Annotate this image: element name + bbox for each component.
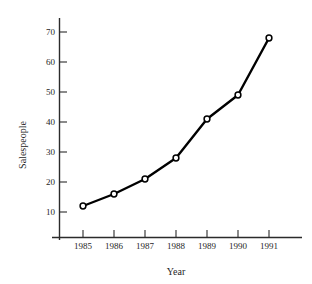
x-tick-label-1989: 1989: [198, 241, 217, 251]
data-point-1988: [173, 155, 179, 161]
x-tick-label-1991: 1991: [260, 241, 278, 251]
y-tick-label-60: 60: [46, 57, 56, 67]
x-tick-label-1985: 1985: [74, 241, 93, 251]
y-axis-title: Salespeople: [17, 121, 28, 169]
y-tick-label-70: 70: [46, 27, 56, 37]
y-tick-label-50: 50: [46, 87, 56, 97]
y-tick-label-30: 30: [46, 147, 56, 157]
data-point-1987: [142, 176, 148, 182]
chart-page: 70 60 50 40 30 20 10 Salespeople: [0, 0, 312, 284]
data-point-1989: [204, 116, 210, 122]
x-tick-label-1987: 1987: [136, 241, 155, 251]
x-tick-label-1990: 1990: [229, 241, 248, 251]
x-tick-label-1986: 1986: [105, 241, 124, 251]
y-tick-label-20: 20: [46, 177, 56, 187]
y-tick-label-40: 40: [46, 117, 56, 127]
line-chart: 70 60 50 40 30 20 10 Salespeople: [0, 0, 312, 284]
data-point-1990: [235, 92, 241, 98]
data-point-1986: [111, 191, 117, 197]
data-point-1985: [80, 203, 86, 209]
y-tick-label-10: 10: [46, 207, 56, 217]
x-tick-label-1988: 1988: [167, 241, 186, 251]
x-axis-title: Year: [167, 266, 186, 277]
data-point-1991: [266, 35, 272, 41]
